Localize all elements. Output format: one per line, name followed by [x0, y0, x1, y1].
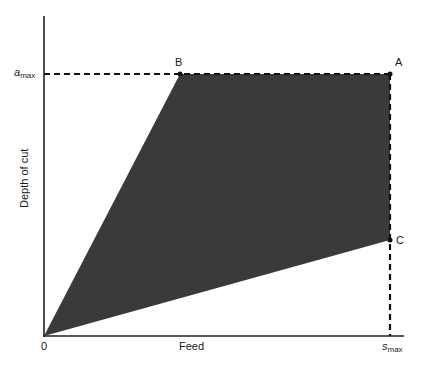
point-b-marker [178, 72, 183, 77]
point-c-label: C [396, 234, 404, 246]
origin-label: 0 [41, 340, 47, 352]
s-max-tick-label: smax [382, 340, 403, 356]
point-a-marker [388, 72, 393, 77]
point-c-marker [388, 238, 393, 243]
point-a-label: A [395, 56, 402, 68]
s-max-subscript: max [388, 345, 403, 354]
x-axis-label: Feed [179, 340, 204, 352]
feasible-region-chart [0, 0, 423, 368]
a-max-tick-label: amax [14, 66, 35, 82]
y-axis-label: Depth of cut [18, 149, 30, 208]
feasible-region [44, 74, 390, 336]
point-b-label: B [175, 56, 182, 68]
a-max-subscript: max [20, 71, 35, 80]
